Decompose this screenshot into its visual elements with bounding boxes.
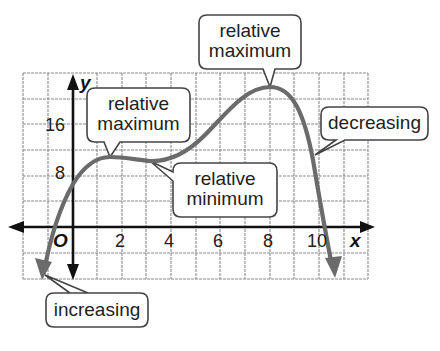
label-relative-minimum: relative minimum <box>173 169 277 209</box>
curve-arrow-right <box>325 256 342 278</box>
x-tick-8: 8 <box>263 231 273 252</box>
label-increasing: increasing <box>46 300 148 320</box>
y-tick-8: 8 <box>55 163 65 184</box>
x-tick-4: 4 <box>164 231 174 252</box>
label-decreasing: decreasing <box>321 113 428 133</box>
x-tick-10: 10 <box>307 231 327 252</box>
label-relative-maximum-left: relative maximum <box>87 94 190 134</box>
x-tick-2: 2 <box>115 231 125 252</box>
origin-label: O <box>53 230 68 252</box>
y-tick-16: 16 <box>45 115 65 136</box>
y-axis-label: y <box>80 72 91 94</box>
x-axis-label: x <box>350 230 361 252</box>
x-tick-6: 6 <box>213 231 223 252</box>
label-relative-maximum-top: relative maximum <box>199 21 301 61</box>
